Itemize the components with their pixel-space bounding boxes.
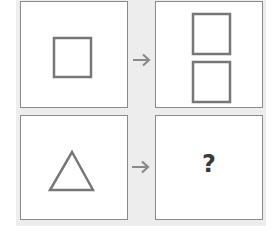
panel-two-squares bbox=[155, 1, 263, 108]
two-squares-icon bbox=[156, 2, 262, 107]
arrow-right-icon bbox=[131, 160, 151, 174]
panel-square bbox=[20, 1, 128, 108]
square-icon bbox=[21, 2, 127, 107]
panel-answer: ? bbox=[155, 115, 263, 220]
question-mark: ? bbox=[156, 150, 262, 178]
arrow-right-icon bbox=[132, 53, 152, 67]
triangle-icon bbox=[21, 116, 127, 219]
panel-triangle bbox=[20, 115, 128, 220]
